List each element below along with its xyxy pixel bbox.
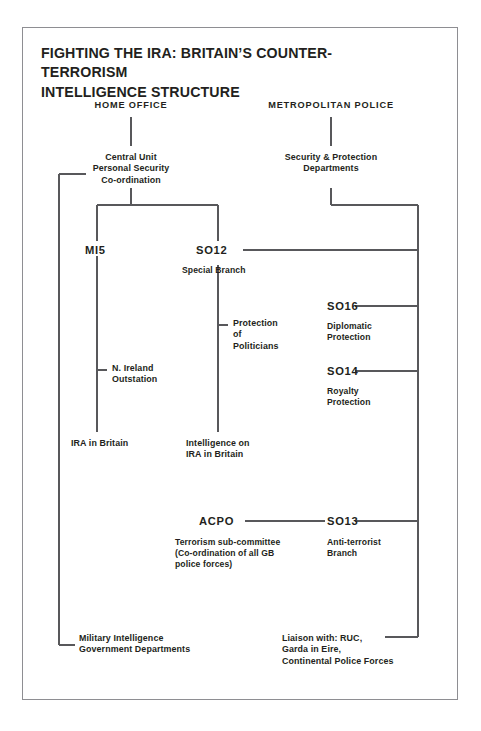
page-title-line-2: INTELLIGENCE STRUCTURE <box>41 84 240 100</box>
node-acpo: ACPO <box>199 514 234 528</box>
node-metropolitan-police: METROPOLITAN POLICE <box>256 100 406 112</box>
node-so14-subtitle: Royalty Protection <box>327 386 371 408</box>
node-mi5: MI5 <box>85 243 106 257</box>
node-so12: SO12 <box>196 243 227 257</box>
node-intelligence-on-ira-in-britain: Intelligence on IRA in Britain <box>186 438 250 461</box>
node-home-office: HOME OFFICE <box>71 100 191 112</box>
page-title: FIGHTING THE IRA: BRITAIN’S COUNTER-TERR… <box>41 44 411 102</box>
page-title-line-1: FIGHTING THE IRA: BRITAIN’S COUNTER-TERR… <box>41 45 332 80</box>
node-n-ireland-outstation: N. Ireland Outstation <box>112 363 157 386</box>
node-ira-in-britain: IRA in Britain <box>71 438 128 449</box>
node-military-intelligence: Military Intelligence Government Departm… <box>79 633 190 656</box>
node-so16-subtitle: Diplomatic Protection <box>327 321 372 343</box>
node-so14: SO14 <box>327 364 358 378</box>
node-acpo-subtitle: Terrorism sub-committee (Co-ordination o… <box>175 537 280 570</box>
node-security-protection-departments: Security & Protection Departments <box>261 152 401 175</box>
node-protection-of-politicians: Protection of Politicians <box>233 318 279 352</box>
node-so13-subtitle: Anti-terrorist Branch <box>327 537 381 559</box>
node-liaison: Liaison with: RUC, Garda in Eire, Contin… <box>282 633 394 667</box>
diagram-frame-border <box>22 27 458 700</box>
node-central-unit: Central Unit Personal Security Co-ordina… <box>71 152 191 186</box>
node-so16: SO16 <box>327 299 358 313</box>
diagram-page: FIGHTING THE IRA: BRITAIN’S COUNTER-TERR… <box>0 0 481 731</box>
node-so12-subtitle: Special Branch <box>182 265 246 276</box>
node-so13: SO13 <box>327 514 358 528</box>
